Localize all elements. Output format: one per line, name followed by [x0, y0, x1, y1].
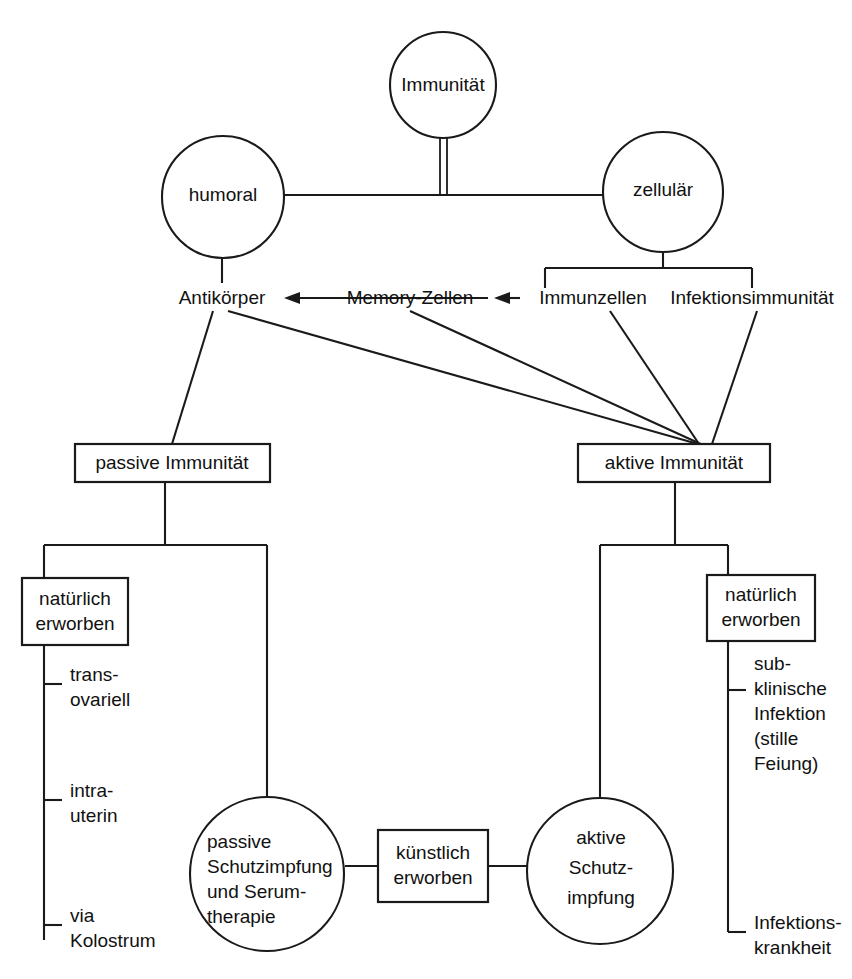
- node-natuerlich-erworben-links[interactable]: natürlich erworben: [22, 578, 128, 645]
- via-kolostrum-line2: Kolostrum: [70, 930, 156, 951]
- subklinische-infektion-line1: sub-: [754, 653, 791, 674]
- kuenstlich-erworben-box[interactable]: [378, 830, 488, 902]
- node-passive-schutzimpfung[interactable]: passive Schutzimpfung und Serum- therapi…: [190, 797, 344, 951]
- passive-schutzimpfung-line3: und Serum-: [207, 881, 306, 902]
- via-kolostrum-line1: via: [70, 905, 95, 926]
- label-antikoerper: Antikörper: [179, 287, 266, 308]
- node-zellulaer[interactable]: zellulär: [603, 132, 723, 252]
- natuerlich-erworben-links-line2: erworben: [35, 613, 114, 634]
- label-infektionskrankheit: Infektions- krankheit: [754, 912, 842, 958]
- label-subklinische-infektion: sub- klinische Infektion (stille Feiung): [754, 653, 827, 774]
- infektionskrankheit-line1: Infektions-: [754, 912, 842, 933]
- node-immunitaet[interactable]: Immunität: [390, 32, 496, 138]
- infektionskrankheit-line2: krankheit: [754, 937, 832, 958]
- intrauterin-line1: intra-: [70, 780, 113, 801]
- label-intrauterin: intra- uterin: [70, 780, 118, 826]
- transovariell-line2: ovariell: [70, 689, 130, 710]
- natuerlich-erworben-rechts-line1: natürlich: [725, 584, 797, 605]
- label-transovariell: trans- ovariell: [70, 664, 130, 710]
- subklinische-infektion-line3: Infektion: [754, 703, 826, 724]
- node-humoral[interactable]: humoral: [162, 136, 284, 258]
- subklinische-infektion-line5: Feiung): [754, 753, 818, 774]
- aktive-immunitaet-label: aktive Immunität: [605, 452, 744, 473]
- node-aktive-immunitaet[interactable]: aktive Immunität: [578, 444, 770, 482]
- label-immunzellen: Immunzellen: [539, 287, 647, 308]
- transovariell-line1: trans-: [70, 664, 119, 685]
- kuenstlich-erworben-line2: erworben: [393, 867, 472, 888]
- subklinische-infektion-line4: (stille: [754, 728, 798, 749]
- node-natuerlich-erworben-rechts[interactable]: natürlich erworben: [707, 575, 815, 641]
- immunity-diagram-root: Immunität humoral zellulär Antikörper Me…: [0, 0, 852, 979]
- subklinische-infektion-line2: klinische: [754, 678, 827, 699]
- zellulaer-label: zellulär: [633, 179, 694, 200]
- passive-immunitaet-label: passive Immunität: [95, 452, 249, 473]
- natuerlich-erworben-rechts-line2: erworben: [721, 609, 800, 630]
- aktive-schutzimpfung-line1: aktive: [576, 827, 626, 848]
- arrowhead-memory-zellen: [494, 292, 510, 304]
- arrowhead-antikoerper: [284, 292, 300, 304]
- kuenstlich-erworben-line1: künstlich: [396, 842, 470, 863]
- node-aktive-schutzimpfung[interactable]: aktive Schutz- impfung: [527, 798, 673, 944]
- passive-schutzimpfung-line1: passive: [207, 831, 271, 852]
- immunity-classification-diagram: Immunität humoral zellulär Antikörper Me…: [0, 0, 852, 979]
- label-memory-zellen: Memory-Zellen: [347, 287, 474, 308]
- edge-antikoerper-to-aktive: [228, 311, 705, 446]
- passive-schutzimpfung-line4: therapie: [207, 906, 276, 927]
- natuerlich-erworben-links-line1: natürlich: [39, 588, 111, 609]
- edge-immunzellen-to-aktive: [610, 311, 699, 444]
- node-kuenstlich-erworben[interactable]: künstlich erworben: [378, 830, 488, 902]
- edge-infektionsimmunitaet-to-aktive: [712, 311, 757, 444]
- edge-antikoerper-to-passive: [172, 311, 213, 444]
- edge-memory-to-aktive: [410, 311, 705, 446]
- passive-schutzimpfung-line2: Schutzimpfung: [207, 856, 333, 877]
- immunitaet-label: Immunität: [401, 74, 485, 95]
- aktive-schutzimpfung-line3: impfung: [567, 887, 635, 908]
- intrauterin-line2: uterin: [70, 805, 118, 826]
- aktive-schutzimpfung-line2: Schutz-: [569, 857, 633, 878]
- node-passive-immunitaet[interactable]: passive Immunität: [75, 444, 270, 482]
- label-via-kolostrum: via Kolostrum: [70, 905, 156, 951]
- humoral-label: humoral: [189, 184, 258, 205]
- label-infektionsimmunitaet: Infektionsimmunität: [670, 287, 834, 308]
